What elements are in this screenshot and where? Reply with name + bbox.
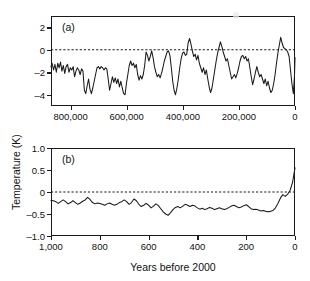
panel-b-plot <box>0 0 310 281</box>
x-tick-mark <box>197 236 198 240</box>
x-tick-label: 600 <box>141 241 157 252</box>
x-tick-mark <box>51 236 52 240</box>
y-tick-label: 0 <box>5 187 45 198</box>
y-tick-mark <box>47 148 51 149</box>
x-tick-mark <box>149 236 150 240</box>
y-tick-mark <box>47 170 51 171</box>
y-tick-mark <box>47 214 51 215</box>
x-tick-label: 0 <box>292 241 297 252</box>
data-series-line <box>51 168 295 216</box>
x-tick-label: 200 <box>238 241 254 252</box>
scan-artifact <box>233 12 239 19</box>
x-tick-mark <box>100 236 101 240</box>
y-tick-label: –0.5 <box>5 209 45 220</box>
x-tick-label: 400 <box>189 241 205 252</box>
x-tick-label: 800 <box>92 241 108 252</box>
y-tick-label: –1.0 <box>5 231 45 242</box>
y-tick-label: 1.0 <box>5 143 45 154</box>
x-axis-title: Years before 2000 <box>130 261 215 273</box>
x-tick-mark <box>295 236 296 240</box>
y-tick-mark <box>47 192 51 193</box>
figure-root: Temperature (K) (a) 20–2–4 800,000600,00… <box>0 0 310 281</box>
x-tick-label: 1,000 <box>39 241 63 252</box>
y-tick-label: 0.5 <box>5 165 45 176</box>
x-tick-mark <box>246 236 247 240</box>
